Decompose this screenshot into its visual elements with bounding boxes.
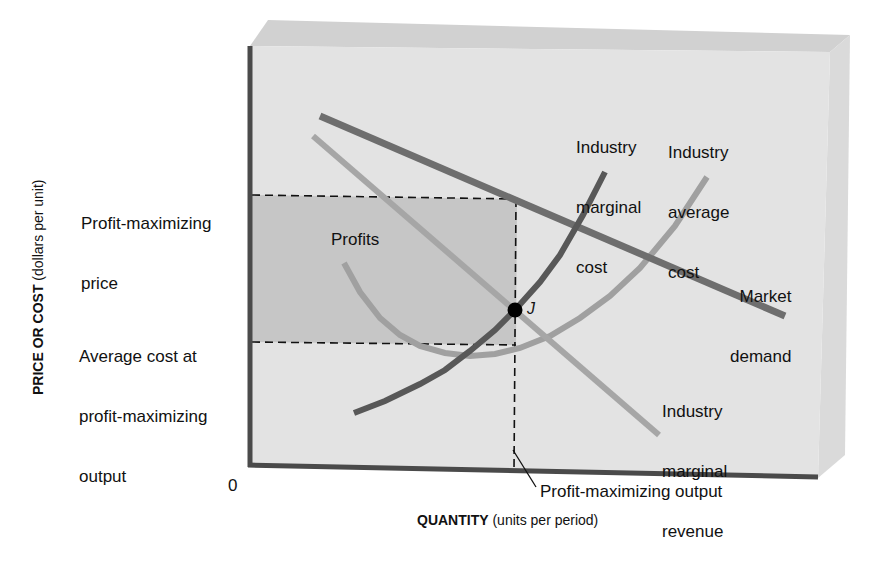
label-origin-zero: 0: [228, 476, 237, 496]
label-line: cost: [668, 263, 729, 283]
label-line: marginal: [576, 198, 641, 218]
label-line: average: [668, 203, 729, 223]
label-line: cost: [576, 258, 641, 278]
label-point-j: J: [527, 299, 535, 319]
label-profits: Profits: [331, 230, 379, 250]
label-line: Industry: [668, 143, 729, 163]
label-line: marginal: [662, 462, 727, 482]
x-axis-title: QUANTITY (units per period): [417, 512, 598, 528]
point-j-marker: [508, 303, 523, 318]
x-axis-title-units: (units per period): [492, 512, 598, 528]
label-line: price: [81, 274, 211, 294]
x-axis-title-bold: QUANTITY: [417, 512, 489, 528]
y-axis-title-bold: PRICE OR COST: [30, 285, 46, 395]
label-industry-average-cost: Industry average cost: [668, 103, 729, 303]
label-avg-cost-at-output: Average cost at profit-maximizing output: [79, 307, 207, 507]
label-line: profit-maximizing: [79, 407, 207, 427]
label-line: Profit-maximizing: [81, 214, 211, 234]
label-profit-max-output: Profit-maximizing output: [540, 482, 722, 502]
label-industry-marginal-revenue: Industry marginal revenue: [662, 362, 727, 561]
label-market-demand: Market demand: [730, 247, 791, 387]
label-line: Average cost at: [79, 347, 207, 367]
label-profit-max-price: Profit-maximizing price: [81, 174, 211, 314]
y-axis-title-units: (dollars per unit): [30, 179, 46, 280]
label-industry-marginal-cost: Industry marginal cost: [576, 98, 641, 298]
label-line: output: [79, 467, 207, 487]
label-line: Industry: [576, 138, 641, 158]
label-line: Industry: [662, 402, 727, 422]
label-line: demand: [730, 347, 791, 367]
label-line: revenue: [662, 522, 727, 542]
y-axis-title: PRICE OR COST (dollars per unit): [30, 179, 46, 395]
label-line: Market: [730, 287, 791, 307]
